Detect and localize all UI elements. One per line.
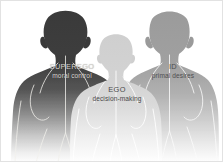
figures-illustration — [1, 1, 223, 162]
psyche-diagram: SUPEREGO moral control EGO decision-maki… — [0, 0, 223, 162]
figure-ego — [70, 34, 162, 162]
